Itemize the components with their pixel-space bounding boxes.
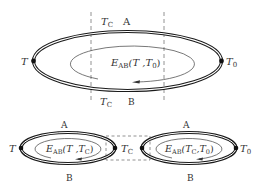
label-T: T — [9, 143, 17, 154]
label-Tc-bottom: TC — [100, 96, 112, 109]
label-A-top: A — [122, 16, 131, 27]
arrowhead-icon — [196, 158, 203, 161]
label-B: B — [187, 173, 194, 183]
label-T0: T0 — [226, 56, 237, 69]
bottom-left-circuit: T A B EAB(T ,TC) — [9, 120, 117, 183]
node-right — [234, 146, 239, 151]
label-T0: T0 — [240, 143, 251, 156]
label-A: A — [60, 120, 68, 130]
label-Tc-junction: TC — [121, 143, 133, 156]
emf-label-right: EAB(TC,T0) — [164, 143, 214, 156]
node-right — [219, 59, 224, 64]
label-B-top: B — [128, 97, 135, 107]
arrowhead-icon — [132, 80, 140, 83]
label-Tc-top: TC — [101, 16, 113, 29]
label-A: A — [182, 120, 190, 130]
emf-label-left: EAB(T ,TC) — [45, 143, 94, 156]
node-left — [31, 59, 36, 64]
arrowhead-icon — [75, 158, 82, 161]
label-B: B — [66, 173, 73, 183]
thermocouple-diagram: T T0 TC A TC B EAB(T ,T0) TC T A B EAB(T… — [0, 0, 256, 189]
top-circuit: T T0 TC A TC B EAB(T ,T0) — [21, 12, 237, 109]
node-left — [140, 146, 145, 151]
bottom-right-circuit: T0 A B EAB(TC,T0) — [140, 120, 251, 183]
node-right — [113, 146, 118, 151]
node-left — [19, 146, 24, 151]
emf-label-top: EAB(T ,T0) — [110, 57, 161, 70]
label-T: T — [21, 56, 29, 67]
